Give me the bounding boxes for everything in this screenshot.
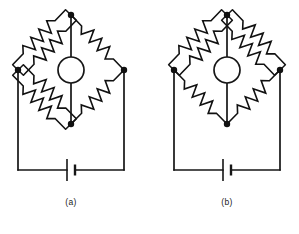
upper-left-arm-resistor-2: [169, 10, 222, 65]
bridge-node-right: [121, 67, 127, 73]
bridge-node-right: [277, 67, 283, 73]
panel-caption: (a): [65, 197, 76, 207]
bridge-node-top: [224, 12, 230, 18]
circuit-diagram-canvas: (a) (b): [0, 0, 299, 234]
galvanometer: [214, 57, 240, 83]
panel-caption: (b): [221, 197, 232, 207]
bridge-node-bottom: [68, 121, 74, 127]
bridge-node-bottom: [224, 121, 230, 127]
panel-b: (b): [169, 10, 286, 207]
bridge-node-top: [68, 12, 74, 18]
figure-root: (a) (b): [0, 0, 299, 234]
bridge-node-left: [15, 67, 21, 73]
upper-left-arm-resistor-2: [13, 10, 66, 65]
galvanometer: [58, 57, 84, 83]
bridge-node-left: [171, 67, 177, 73]
panel-a: (a): [13, 10, 128, 207]
lower-left-arm-resistor-2: [13, 75, 66, 129]
